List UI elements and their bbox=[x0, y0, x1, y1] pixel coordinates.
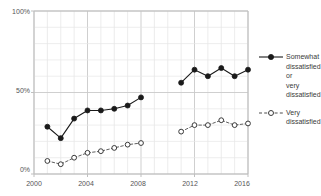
series-line-0 bbox=[181, 68, 248, 83]
data-point bbox=[205, 74, 210, 79]
data-point bbox=[192, 123, 197, 128]
data-point bbox=[232, 74, 237, 79]
data-point bbox=[98, 108, 103, 113]
data-point bbox=[85, 108, 90, 113]
legend-swatch-solid-filled bbox=[258, 52, 284, 62]
data-point bbox=[232, 123, 237, 128]
legend-entry-very-dissatisfied: Very dissatisfied bbox=[258, 108, 320, 127]
data-point bbox=[45, 124, 50, 129]
legend: Somewhat dissatisfied or very dissatisfi… bbox=[258, 52, 320, 135]
data-point bbox=[125, 103, 130, 108]
data-point bbox=[219, 118, 224, 123]
data-point bbox=[192, 67, 197, 72]
data-point bbox=[72, 155, 77, 160]
data-point bbox=[72, 116, 77, 121]
legend-label-somewhat-or-very-dissatisfied: Somewhat dissatisfied or very dissatisfi… bbox=[284, 52, 321, 100]
legend-entry-somewhat-or-very-dissatisfied: Somewhat dissatisfied or very dissatisfi… bbox=[258, 52, 320, 100]
series-line-1 bbox=[181, 120, 248, 131]
data-point bbox=[125, 142, 130, 147]
data-point bbox=[139, 141, 144, 146]
data-point bbox=[98, 149, 103, 154]
axis-frame bbox=[31, 11, 248, 177]
data-point bbox=[205, 123, 210, 128]
data-point bbox=[246, 67, 251, 72]
data-point bbox=[246, 121, 251, 126]
data-point bbox=[58, 136, 63, 141]
legend-swatch-dashed-open bbox=[258, 108, 284, 118]
series-layer bbox=[45, 66, 251, 167]
data-point bbox=[219, 66, 224, 71]
data-point bbox=[179, 80, 184, 85]
data-point bbox=[85, 150, 90, 155]
data-point bbox=[112, 106, 117, 111]
data-point bbox=[112, 146, 117, 151]
gridlines bbox=[34, 11, 248, 174]
legend-label-very-dissatisfied: Very dissatisfied bbox=[284, 108, 321, 127]
data-point bbox=[45, 159, 50, 164]
data-point bbox=[139, 95, 144, 100]
data-point bbox=[179, 129, 184, 134]
data-point bbox=[58, 162, 63, 167]
